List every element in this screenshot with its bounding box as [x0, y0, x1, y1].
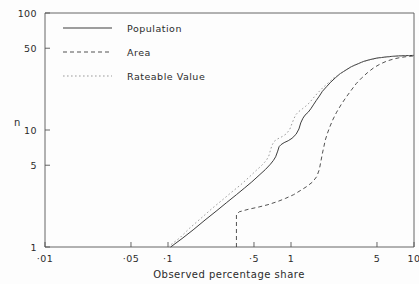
data-series-group — [168, 55, 414, 247]
x-tick-label: 5 — [374, 253, 380, 264]
series-line-population — [171, 55, 414, 247]
x-tick-label: ·05 — [123, 253, 139, 264]
y-tick-label: 10 — [24, 125, 37, 136]
plot-frame — [45, 13, 414, 247]
x-tick-label: 1 — [288, 253, 294, 264]
y-axis-title: n — [14, 117, 21, 128]
chart-figure: ·01·05·1·51510 151050100 Observed percen… — [0, 0, 419, 284]
x-tick-label: ·1 — [163, 253, 173, 264]
y-tick-label: 50 — [24, 43, 37, 54]
x-tick-label: 10 — [408, 253, 419, 264]
x-axis-title: Observed percentage share — [153, 269, 305, 280]
series-line-area — [236, 56, 414, 247]
x-tick-label: ·5 — [249, 253, 259, 264]
y-tick-label: 5 — [31, 160, 37, 171]
x-axis-ticks — [45, 242, 414, 247]
legend-label-population: Population — [127, 23, 182, 34]
y-axis-tick-labels: 151050100 — [18, 8, 37, 253]
x-axis-tick-labels: ·01·05·1·51510 — [37, 253, 419, 264]
chart-legend: PopulationAreaRateable Value — [63, 23, 205, 82]
legend-label-area: Area — [127, 47, 151, 58]
x-tick-label: ·01 — [37, 253, 53, 264]
series-line-rateable-value — [168, 55, 414, 247]
y-axis-ticks — [45, 13, 50, 247]
y-tick-label: 1 — [31, 242, 37, 253]
y-tick-label: 100 — [18, 8, 37, 19]
legend-label-rateable-value: Rateable Value — [127, 71, 205, 82]
chart-canvas: ·01·05·1·51510 151050100 Observed percen… — [0, 0, 419, 284]
